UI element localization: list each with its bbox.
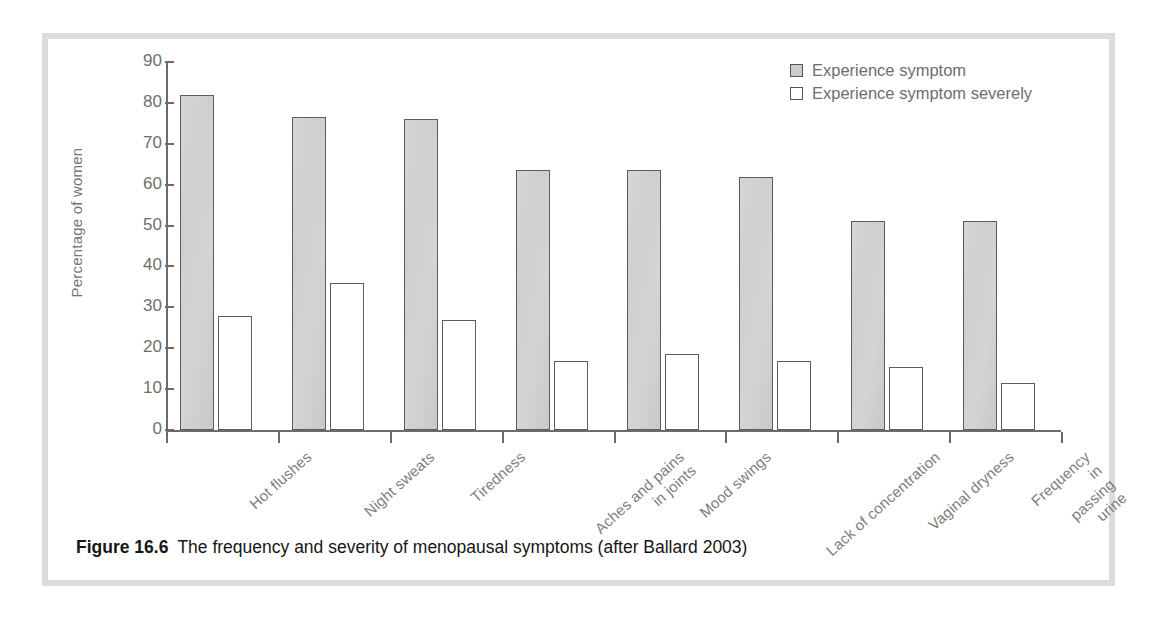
legend-item-experience-symptom-severely: Experience symptom severely	[790, 84, 1032, 103]
y-axis-tick-label: 40	[114, 255, 162, 275]
bar-experience-symptom-severely	[1001, 383, 1035, 430]
y-axis-tick-label: 0	[114, 419, 162, 439]
y-axis-tick-label: 30	[114, 296, 162, 316]
y-axis-tick-label: 20	[114, 337, 162, 357]
bar-experience-symptom	[516, 170, 550, 430]
figure-caption: Figure 16.6The frequency and severity of…	[76, 537, 747, 558]
bar-experience-symptom	[739, 177, 773, 431]
bar-experience-symptom-severely	[218, 316, 252, 430]
x-axis-tick-mark	[166, 432, 168, 443]
bar-group	[502, 62, 614, 430]
x-axis-label: Night sweats	[360, 448, 438, 521]
x-axis-tick-mark	[949, 432, 951, 443]
bar-experience-symptom-severely	[554, 361, 588, 431]
y-axis-title: Percentage of women	[68, 123, 85, 323]
x-axis-tick-mark	[725, 432, 727, 443]
y-axis-tick-label: 10	[114, 378, 162, 398]
x-axis-label: Aches and pains in joints	[591, 448, 700, 551]
bar-group	[725, 62, 837, 430]
bar-experience-symptom-severely	[665, 354, 699, 430]
legend-swatch-hollow-icon	[790, 87, 803, 100]
x-axis-label: Hot flushes	[246, 448, 316, 513]
x-axis-tick-mark	[502, 432, 504, 443]
legend-label: Experience symptom	[812, 61, 966, 80]
bar-experience-symptom	[404, 119, 438, 430]
chart-legend: Experience symptom Experience symptom se…	[790, 61, 1032, 107]
legend-swatch-filled-icon	[790, 64, 803, 77]
bar-group	[949, 62, 1061, 430]
bar-experience-symptom	[292, 117, 326, 430]
bar-experience-symptom-severely	[777, 361, 811, 431]
bar-group	[278, 62, 390, 430]
bar-group	[837, 62, 949, 430]
legend-item-experience-symptom: Experience symptom	[790, 61, 1032, 80]
x-axis-tick-mark	[390, 432, 392, 443]
y-axis-tick-label: 80	[114, 92, 162, 112]
bar-experience-symptom	[180, 95, 214, 430]
x-axis-tick-mark	[1061, 432, 1063, 443]
bar-group	[390, 62, 502, 430]
bar-experience-symptom-severely	[442, 320, 476, 430]
x-axis-label: Tiredness	[467, 448, 529, 507]
bar-group	[166, 62, 278, 430]
x-axis-tick-mark	[614, 432, 616, 443]
bar-experience-symptom-severely	[889, 367, 923, 430]
plot-area: 9080706050403020100 Hot flushesNight swe…	[166, 62, 1061, 430]
figure-caption-text: The frequency and severity of menopausal…	[177, 537, 747, 557]
y-axis-tick-label: 70	[114, 133, 162, 153]
y-axis-tick-label: 60	[114, 174, 162, 194]
x-axis-label: Lack of concentration	[823, 448, 944, 560]
chart-area: Percentage of women 9080706050403020100 …	[48, 39, 1109, 529]
bar-group	[614, 62, 726, 430]
figure-frame: Percentage of women 9080706050403020100 …	[42, 33, 1115, 586]
bar-experience-symptom	[627, 170, 661, 430]
bar-experience-symptom	[963, 221, 997, 430]
x-axis-label: Mood swings	[696, 448, 775, 522]
x-axis-tick-mark	[278, 432, 280, 443]
y-axis-tick-label: 90	[114, 51, 162, 71]
legend-label: Experience symptom severely	[812, 84, 1032, 103]
bar-experience-symptom	[851, 221, 885, 430]
y-axis-tick-label: 50	[114, 215, 162, 235]
x-axis-tick-mark	[837, 432, 839, 443]
bar-experience-symptom-severely	[330, 283, 364, 430]
figure-number: Figure 16.6	[76, 537, 168, 557]
x-axis-label: Frequency in passing urine	[1028, 448, 1131, 551]
